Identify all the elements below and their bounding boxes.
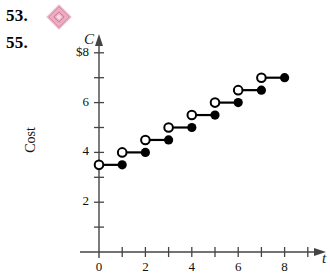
step-open-endpoint (234, 86, 243, 95)
step-open-endpoint (95, 161, 104, 170)
step-filled-endpoint (141, 148, 150, 157)
y-axis-tick-label: 6 (63, 94, 89, 110)
y-axis-arrowhead (95, 34, 103, 46)
step-function-graph: C t Cost 246$8 02468 (0, 0, 330, 275)
y-axis-tick-label: 2 (63, 193, 89, 209)
x-axis-tick-label: 6 (230, 259, 246, 275)
step-open-endpoint (164, 123, 173, 132)
step-filled-endpoint (234, 98, 243, 107)
step-open-endpoint (211, 98, 220, 107)
step-open-endpoint (188, 111, 197, 120)
step-open-endpoint (257, 73, 266, 82)
y-axis-title: Cost (23, 95, 39, 185)
step-filled-endpoint (210, 110, 219, 119)
step-open-endpoint (118, 148, 127, 157)
step-filled-endpoint (280, 73, 289, 82)
step-open-endpoint (141, 136, 150, 145)
step-filled-endpoint (164, 135, 173, 144)
x-axis-tick-label: 0 (91, 259, 107, 275)
step-endpoints (95, 73, 290, 169)
x-axis-tick-label: 2 (137, 259, 153, 275)
textbook-page-fragment: 53. 55. (0, 0, 330, 275)
y-axis-tick-label: $8 (63, 44, 89, 60)
step-filled-endpoint (257, 86, 266, 95)
x-axis-tick-label: 4 (184, 259, 200, 275)
x-axis-tick-label: 8 (277, 259, 293, 275)
step-filled-endpoint (118, 160, 127, 169)
x-axis-variable-label: t (322, 250, 326, 267)
graph-svg (0, 0, 330, 275)
step-filled-endpoint (187, 123, 196, 132)
y-axis-tick-label: 4 (63, 143, 89, 159)
